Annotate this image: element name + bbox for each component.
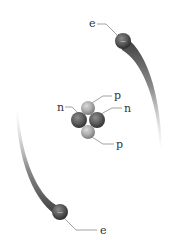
plus-icon: +: [85, 104, 92, 113]
leader-proton-bottom: [92, 137, 114, 144]
minus-icon: −: [57, 208, 64, 217]
leader-proton-top: [92, 96, 112, 103]
electron-trail-bottom: [16, 110, 65, 219]
leader-neutron-right: [101, 108, 122, 114]
atom-diagram: + + − − e e p n n p: [0, 0, 179, 240]
label-neutron-right: n: [124, 102, 131, 115]
leader-neutron-left: [65, 107, 78, 113]
neutron-right: [89, 112, 105, 128]
label-neutron-left: n: [57, 101, 64, 114]
minus-icon: −: [120, 37, 127, 46]
label-electron-top: e: [89, 17, 96, 30]
leader-electron-top: [97, 24, 117, 35]
neutron-left: [71, 112, 87, 128]
nucleus: + +: [71, 101, 105, 139]
electron-trail-top: [118, 34, 162, 150]
electron-bottom: −: [52, 204, 68, 220]
plus-icon: +: [85, 128, 92, 137]
label-proton-bottom: p: [116, 138, 123, 151]
leader-electron-bottom: [65, 219, 97, 230]
label-proton-top: p: [114, 89, 121, 102]
electron-top: −: [115, 33, 131, 49]
label-electron-bottom: e: [100, 224, 107, 237]
